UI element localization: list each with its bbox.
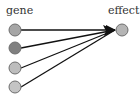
effect-node — [116, 24, 128, 36]
gene-node-g1 — [9, 24, 21, 36]
gene-node-g4 — [9, 81, 21, 93]
edge-g3-to-effect — [21, 30, 115, 68]
gene-node-g3 — [9, 62, 21, 74]
gene-node-g2 — [9, 42, 21, 54]
edges — [21, 25, 115, 87]
gene-effect-diagram — [0, 0, 140, 105]
